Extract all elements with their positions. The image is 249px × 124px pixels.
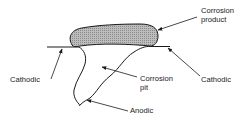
- label-cathodic-right: Cathodic: [201, 76, 231, 85]
- metal-surface: [47, 47, 170, 48]
- corrosion-product-deposit: [70, 24, 158, 47]
- corrosion-pit-diagram: Corrosion product Cathodic Cathodic Corr…: [0, 0, 249, 124]
- label-anodic: Anodic: [130, 107, 153, 116]
- label-corrosion-product: Corrosion product: [201, 7, 234, 24]
- label-cathodic-left: Cathodic: [10, 76, 40, 85]
- corrosion-pit-outline: [74, 46, 150, 105]
- label-corrosion-product-line2: product: [201, 16, 234, 25]
- label-corrosion-pit: Corrosion pit: [140, 75, 173, 92]
- label-corrosion-pit-line2: pit: [140, 84, 173, 93]
